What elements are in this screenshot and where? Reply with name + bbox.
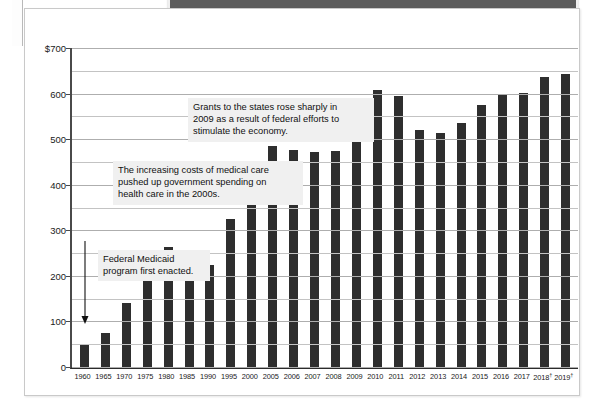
gridline	[72, 299, 578, 300]
x-axis-tick-label: 2012	[407, 372, 428, 382]
x-axis-tick-label: 1975	[135, 372, 156, 382]
x-axis-tick-label: 1970	[114, 372, 135, 382]
bar-chart: 0100200300400500600$700 1960196519701975…	[30, 36, 582, 384]
screenshot-stage: 0100200300400500600$700 1960196519701975…	[0, 0, 604, 412]
bar	[247, 197, 256, 367]
x-axis-tick-label: 2013	[428, 372, 449, 382]
bar	[143, 270, 152, 367]
bar	[561, 74, 570, 367]
bar	[373, 90, 382, 367]
bar	[352, 120, 361, 367]
y-axis-tick-label: 300	[30, 225, 66, 236]
x-axis-tick-label: 2014	[449, 372, 470, 382]
bar	[101, 333, 110, 367]
x-axis-tick-label: 1995	[218, 372, 239, 382]
x-axis-tick-label: 2015	[470, 372, 491, 382]
y-axis-tick-label: 500	[30, 134, 66, 145]
bar	[457, 123, 466, 367]
gridline	[72, 344, 578, 345]
x-axis-tick-label: 1960	[72, 372, 93, 382]
x-axis-tick-label: 1990	[198, 372, 219, 382]
y-axis-tick-mark	[66, 321, 70, 322]
y-axis-tick-label: 600	[30, 88, 66, 99]
x-axis-tick-label: 2006	[281, 372, 302, 382]
x-axis-tick-label: 2007	[302, 372, 323, 382]
x-axis-tick-label: 1980	[156, 372, 177, 382]
x-axis-tick-label: 2000	[239, 372, 260, 382]
y-axis-tick-mark	[66, 185, 70, 186]
annotation-medicaid-enacted: Federal Medicaid program first enacted.	[98, 250, 210, 281]
x-axis-tick-label: 2019†	[553, 372, 574, 382]
bar	[185, 269, 194, 367]
annotation-grants-2009: Grants to the states rose sharply in 200…	[188, 98, 374, 142]
x-axis-tick-label: 2017	[511, 372, 532, 382]
y-axis-tick-label: 400	[30, 179, 66, 190]
bar	[394, 96, 403, 367]
x-axis-tick-label: 2009	[344, 372, 365, 382]
y-axis-tick-label: $700	[30, 43, 66, 54]
y-axis-tick-mark	[66, 94, 70, 95]
gridline	[72, 367, 578, 368]
gridline	[72, 230, 578, 231]
x-axis-tick-label: 2008	[323, 372, 344, 382]
y-axis-tick-mark	[66, 48, 70, 49]
y-axis-tick-mark	[66, 230, 70, 231]
gridline	[72, 208, 578, 209]
x-axis-labels: 1960196519701975198019851990199520002005…	[70, 372, 576, 382]
x-axis-tick-label: 1985	[177, 372, 198, 382]
y-axis-tick-label: 200	[30, 270, 66, 281]
bar	[436, 133, 445, 367]
x-axis-tick-label: 1965	[93, 372, 114, 382]
plot-area	[70, 48, 578, 369]
gridline	[72, 94, 578, 95]
y-axis-tick-mark	[66, 276, 70, 277]
x-axis-tick-label: 2018†	[532, 372, 553, 382]
bar	[415, 130, 424, 367]
gridline	[72, 48, 578, 49]
page-left-edge	[12, 0, 23, 46]
x-axis-tick-label: 2010	[365, 372, 386, 382]
x-axis-tick-label: 2016	[490, 372, 511, 382]
bar	[122, 303, 131, 367]
y-axis-tick-label: 100	[30, 316, 66, 327]
bar	[80, 344, 89, 367]
annotation-medical-costs: The increasing costs of medical care pus…	[113, 161, 303, 205]
bar	[477, 105, 486, 367]
bar	[540, 77, 549, 367]
gridline	[72, 321, 578, 322]
x-axis-tick-label: 2011	[386, 372, 407, 382]
y-axis-tick-mark	[66, 139, 70, 140]
y-axis-tick-label: 0	[30, 362, 66, 373]
gridline	[72, 71, 578, 72]
x-axis-tick-label: 2005	[260, 372, 281, 382]
y-axis-tick-mark	[66, 367, 70, 368]
